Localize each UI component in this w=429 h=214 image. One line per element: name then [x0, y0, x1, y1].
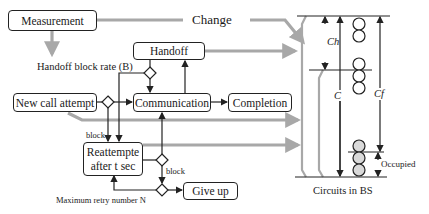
label-occupied: Occupied [381, 159, 415, 169]
node-new-call-label: New call attempt [16, 96, 95, 110]
label-circuits-in-bs: Circuits in BS [313, 185, 373, 196]
node-give-up-label: Give up [192, 184, 229, 198]
node-handoff-label: Handoff [150, 44, 188, 58]
node-communication: Communication [133, 93, 211, 112]
label-c: C [334, 90, 341, 101]
node-completion-label: Completion [233, 96, 287, 110]
node-reattempt-line1: Reattempte [87, 145, 139, 159]
label-ch: Ch [327, 36, 339, 47]
label-cf: Cf [374, 88, 384, 99]
node-new-call-attempt: New call attempt [13, 93, 97, 112]
label-block-left: block [86, 130, 105, 140]
node-reattempt: Reattempte after t sec [83, 142, 143, 176]
gray-flow-arrows [52, 20, 303, 145]
label-change: Change [192, 12, 232, 28]
label-handoff-block-rate: Handoff block rate (B) [37, 61, 133, 72]
node-communication-label: Communication [135, 96, 209, 110]
label-max-retry: Maximum retry number N [56, 195, 146, 205]
node-give-up: Give up [183, 182, 238, 200]
node-measurement-label: Measurement [21, 14, 84, 28]
node-completion: Completion [228, 93, 292, 112]
label-block-right: block [166, 166, 185, 176]
decision-diamonds [102, 67, 168, 196]
node-reattempt-line2: after t sec [91, 159, 136, 173]
node-handoff: Handoff [133, 42, 205, 60]
circuit-bracket-lines [302, 16, 323, 177]
node-measurement: Measurement [8, 10, 97, 31]
call-admission-diagram: Measurement Handoff New call attempt Com… [0, 0, 429, 214]
